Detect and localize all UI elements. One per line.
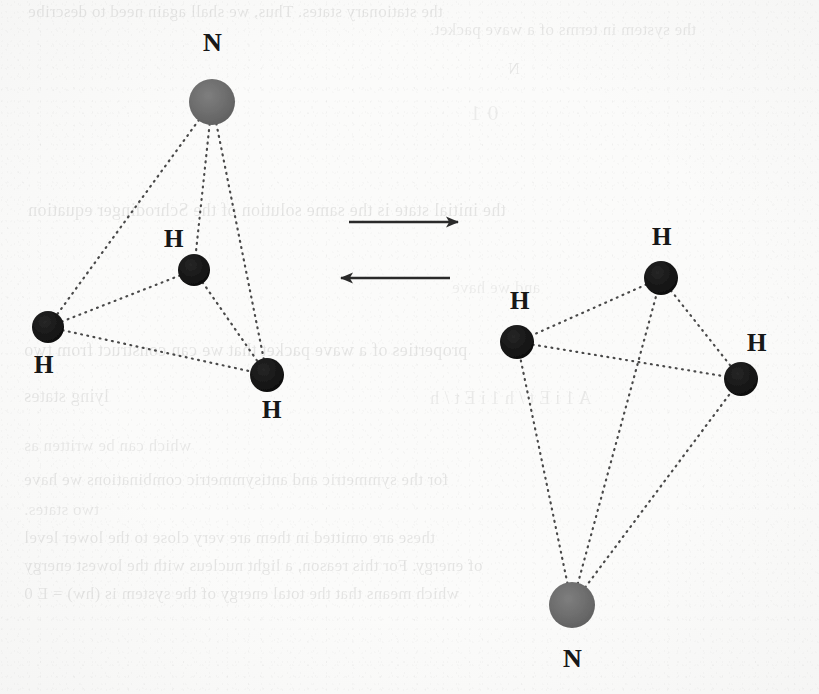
atom-nitrogen-n1 — [189, 79, 235, 125]
bond-n1-h1 — [196, 124, 210, 255]
scanned-page: the stationary states. Thus, we shall ag… — [0, 0, 819, 694]
atom-hydrogen-h1 — [178, 254, 210, 286]
bond-h4-h5 — [532, 284, 647, 335]
atom-nitrogen-n2 — [549, 582, 595, 628]
atom-hydrogen-h6 — [724, 362, 758, 396]
atom-hydrogen-h3 — [250, 358, 284, 392]
ammonia-inversion-diagram — [0, 0, 819, 694]
atom-hydrogen-h4 — [644, 261, 678, 295]
atom-hydrogen-h5 — [500, 325, 534, 359]
atom-label-h6: H — [747, 330, 766, 355]
bond-layer — [57, 120, 732, 588]
bond-n2-h5 — [520, 358, 567, 584]
reaction-arrow-layer — [341, 222, 458, 278]
bond-h1-h3 — [203, 282, 258, 362]
bond-n1-h2 — [57, 120, 199, 315]
atom-label-n2: N — [563, 646, 582, 672]
bond-n2-h4 — [578, 293, 657, 583]
atom-layer — [32, 79, 758, 628]
bond-h2-h3 — [63, 330, 252, 371]
atom-label-h3: H — [262, 397, 281, 422]
atom-hydrogen-h2 — [32, 311, 64, 343]
bond-n2-h6 — [585, 392, 731, 588]
bond-h4-h6 — [671, 291, 731, 367]
bond-h5-h6 — [533, 345, 725, 377]
bond-n1-h3 — [216, 124, 263, 360]
atom-label-n1: N — [203, 30, 222, 56]
atom-label-h4: H — [652, 224, 671, 249]
atom-label-h1: H — [164, 226, 183, 251]
atom-label-h5: H — [510, 288, 529, 313]
atom-label-h2: H — [34, 352, 53, 377]
